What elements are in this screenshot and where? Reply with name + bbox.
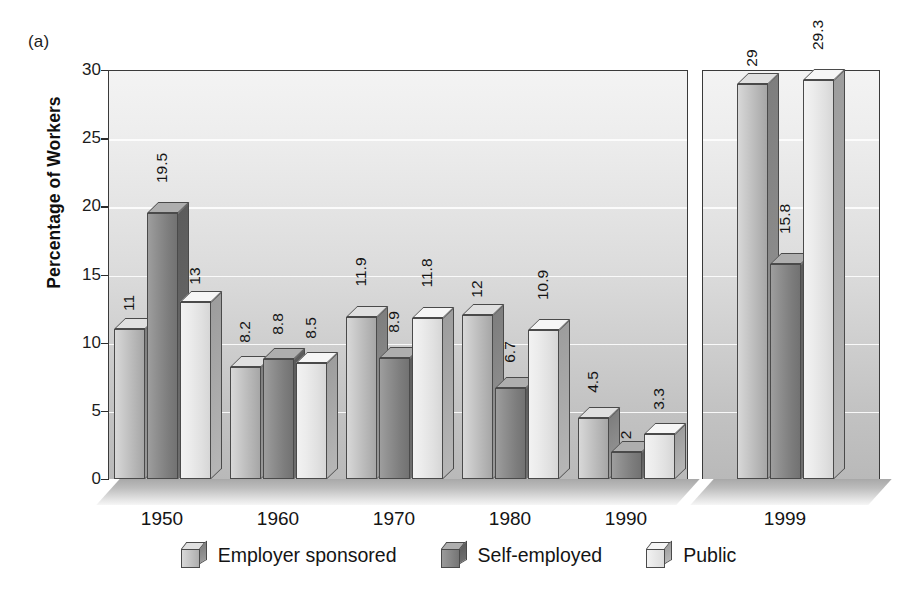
y-tick-30: 30 [82,60,108,80]
floor-shadow-main [96,479,699,505]
bar-value-label: 13 [186,267,204,284]
bar-1960-public: 8.5 [296,363,327,479]
gridline-20 [109,207,687,209]
y-tick-20: 20 [82,196,108,216]
bar-1990-employer-sponsored: 4.5 [578,418,609,479]
bar-value-label: 11.8 [418,259,436,288]
bar-1999-public: 29.3 [803,80,834,479]
legend-label-employer: Employer sponsored [218,544,397,567]
bar-face [346,317,377,479]
bar-face [379,358,410,479]
bar-1950-employer-sponsored: 11 [114,329,145,479]
bar-1980-employer-sponsored: 12 [462,315,493,479]
legend-swatch-part [646,549,665,568]
x-label-1960: 1960 [228,508,328,530]
floor-shadow-1999 [690,479,891,505]
bar-face [147,213,178,479]
bar-1990-public: 3.3 [644,434,675,479]
bar-value-label: 11 [120,295,138,311]
bar-face [296,363,327,479]
bar-value-label: 19.5 [153,153,171,183]
bar-1970-self-employed: 8.9 [379,358,410,479]
bar-value-label: 11.9 [352,257,370,286]
bar-value-label: 29 [743,49,761,66]
y-tick-5: 5 [92,401,108,421]
bar-1999-employer-sponsored: 29 [737,84,768,479]
bar-value-label: 29.3 [809,19,827,49]
bar-face [770,264,801,479]
bar-face [230,367,261,479]
bar-face [462,315,493,479]
legend-swatch-part [181,549,200,568]
bar-face [803,80,834,479]
y-tick-25: 25 [82,128,108,148]
gridline-25 [703,139,879,141]
bar-value-label: 8.8 [269,313,287,335]
bar-1990-self-employed: 2 [611,452,642,479]
bar-1980-self-employed: 6.7 [495,388,526,479]
bar-value-label: 10.9 [534,270,552,300]
bar-1950-self-employed: 19.5 [147,213,178,479]
bar-face [528,330,559,479]
bar-1960-employer-sponsored: 8.2 [230,367,261,479]
bar-1980-public: 10.9 [528,330,559,479]
legend-item-self[interactable]: Self-employed [441,542,603,568]
bar-1999-self-employed: 15.8 [770,264,801,479]
bar-chart-figure: (a) Percentage of Workers 051015202530 1… [0,0,917,611]
bar-side [834,69,845,479]
bar-face [495,388,526,479]
bar-side [443,308,454,479]
bar-face [644,434,675,479]
bar-1970-public: 11.8 [412,318,443,479]
legend-swatch-part [441,549,460,568]
bar-value-label: 3.3 [650,388,668,410]
bar-1960-self-employed: 8.8 [263,359,294,479]
bar-value-label: 8.9 [385,311,403,333]
bar-value-label: 8.2 [236,321,254,343]
bar-1970-employer-sponsored: 11.9 [346,317,377,479]
x-label-1970: 1970 [344,508,444,530]
bar-face [611,452,642,479]
bar-side [559,320,570,479]
y-tick-10: 10 [82,333,108,353]
legend-swatch-self-icon [441,542,467,568]
legend-label-self: Self-employed [478,544,603,567]
bar-1950-public: 13 [180,302,211,479]
gridline-25 [109,139,687,141]
legend-swatch-public-icon [646,542,672,568]
bar-side [327,352,338,478]
bar-value-label: 15.8 [776,203,794,233]
y-tick-15: 15 [82,265,108,285]
legend-label-public: Public [683,544,736,567]
x-label-1999: 1999 [735,508,835,530]
legend-swatch-employer-icon [181,542,207,568]
bar-face [412,318,443,479]
x-label-1950: 1950 [112,508,212,530]
y-axis-tick-labels: 051015202530 [28,0,108,611]
bar-face [263,359,294,479]
bar-value-label: 8.5 [302,317,320,339]
bar-value-label: 6.7 [501,341,519,363]
bar-face [578,418,609,479]
legend-item-employer[interactable]: Employer sponsored [181,542,397,568]
bar-face [114,329,145,479]
bar-face [180,302,211,479]
bar-value-label: 2 [617,431,635,440]
bar-value-label: 4.5 [584,371,602,393]
chart-legend: Employer sponsoredSelf-employedPublic [0,542,917,568]
x-label-1980: 1980 [460,508,560,530]
legend-item-public[interactable]: Public [646,542,736,568]
bar-side [211,291,222,479]
bar-face [737,84,768,479]
x-label-1990: 1990 [576,508,676,530]
bar-value-label: 12 [468,281,486,298]
y-tick-0: 0 [92,469,108,489]
